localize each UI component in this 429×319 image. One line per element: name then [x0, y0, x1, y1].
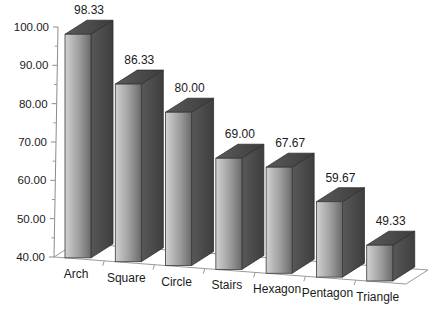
bar-value-label: 80.00: [175, 81, 205, 95]
y-axis-tick-label: 60.00: [18, 174, 47, 186]
bar-value-label: 59.67: [325, 171, 355, 185]
y-axis-tick-label: 90.00: [20, 59, 49, 71]
y-axis-tick-label: 80.00: [19, 98, 48, 110]
bars: [65, 20, 415, 281]
category-label-triangle: Triangle: [356, 290, 399, 304]
chart-canvas: 40.0050.0060.0070.0080.0090.00100.00 49.…: [0, 0, 429, 319]
bar-value-label: 86.33: [124, 53, 154, 67]
category-label-square: Square: [107, 271, 146, 285]
y-axis-tick-label: 40.00: [16, 251, 45, 263]
bar-square: [115, 70, 163, 262]
category-label-pentagon: Pentagon: [302, 286, 353, 300]
bar-value-label: 67.67: [275, 136, 305, 150]
bar-value-label: 98.33: [74, 3, 104, 17]
bar-value-label: 49.33: [376, 214, 406, 228]
y-axis-tick-label: 50.00: [17, 213, 46, 225]
category-label-stairs: Stairs: [212, 278, 243, 292]
bar-arch: [65, 20, 113, 258]
bar-chart: 40.0050.0060.0070.0080.0090.00100.00 49.…: [0, 0, 429, 319]
bar-value-label: 69.00: [225, 127, 255, 141]
y-tick-labels: 40.0050.0060.0070.0080.0090.00100.00: [14, 21, 49, 263]
bar-stairs: [216, 144, 264, 269]
y-axis-tick-label: 100.00: [14, 21, 49, 33]
category-label-circle: Circle: [161, 275, 192, 289]
bar-circle: [166, 98, 214, 265]
y-axis: [49, 27, 58, 257]
y-axis-tick-label: 70.00: [18, 136, 47, 148]
category-label-hexagon: Hexagon: [253, 282, 301, 296]
bar-pentagon: [316, 188, 364, 277]
bar-hexagon: [266, 153, 314, 273]
category-label-arch: Arch: [64, 267, 89, 281]
